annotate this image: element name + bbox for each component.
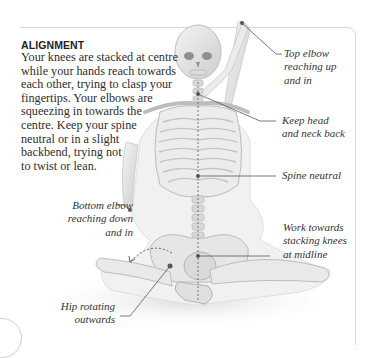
annotation-spine: Spine neutral	[282, 169, 341, 182]
annotation-line: Hip rotating	[40, 300, 115, 313]
body-line: each other, trying to clasp your	[21, 78, 181, 92]
annotation-line: and in	[40, 226, 133, 239]
annotation-line: and neck back	[282, 127, 345, 140]
body-line: fingertips. Your elbows are	[21, 92, 181, 106]
body-line: to twist or lean.	[21, 160, 181, 174]
annotation-top-elbow: Top elbow reaching up and in	[284, 47, 336, 87]
annotation-knees: Work towards stacking knees at midline	[283, 221, 347, 261]
annotation-hip: Hip rotating outwards	[40, 300, 115, 327]
annotation-line: at midline	[283, 248, 347, 261]
body-line: Your knees are stacked at centre	[21, 51, 181, 65]
body-line: neutral or in a slight	[21, 133, 181, 147]
eye-socket-right	[202, 52, 212, 60]
annotation-line: Work towards	[283, 221, 347, 234]
annotation-head-neck: Keep head and neck back	[282, 114, 345, 141]
annotation-line: and in	[284, 74, 336, 87]
annotation-line: reaching down	[40, 212, 133, 225]
eye-socket-left	[184, 52, 194, 60]
annotation-line: Bottom elbow	[40, 199, 133, 212]
body-line: centre. Keep your spine	[21, 119, 181, 133]
body-line: backbend, trying not	[21, 146, 181, 160]
annotation-line: outwards	[40, 313, 115, 326]
body-line: squeezing in towards the	[21, 105, 181, 119]
annotation-line: Keep head	[282, 114, 345, 127]
annotation-bottom-elbow: Bottom elbow reaching down and in	[40, 199, 133, 239]
annotation-line: Top elbow	[284, 47, 336, 60]
annotation-line: reaching up	[284, 60, 336, 73]
annotation-line: Spine neutral	[282, 169, 341, 182]
alignment-description: Your knees are stacked at centre while y…	[21, 51, 181, 173]
annotation-line: stacking knees	[283, 234, 347, 247]
body-line: while your hands reach towards	[21, 65, 181, 79]
